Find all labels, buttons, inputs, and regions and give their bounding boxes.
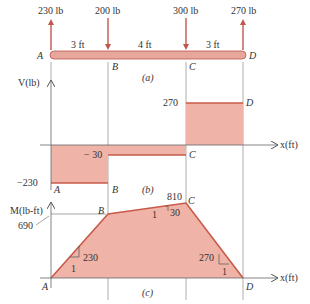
moment-tick-810: 810 bbox=[167, 191, 182, 202]
shear-point-d: D bbox=[245, 97, 254, 108]
moment-diagram: M(lb-ft) x(ft) 690 810 230 1 30 1 270 1 … bbox=[10, 191, 298, 299]
segment-label-bc: 4 ft bbox=[138, 39, 152, 50]
load-label-d: 270 lb bbox=[231, 5, 256, 16]
slope-rise-cd: 270 bbox=[199, 252, 214, 263]
slope-run-bc: 1 bbox=[152, 209, 157, 220]
slope-run-ab: 1 bbox=[71, 263, 76, 274]
load-label-c: 300 lb bbox=[173, 5, 198, 16]
slope-run-cd: 1 bbox=[222, 266, 227, 277]
beam-section: 230 lb 200 lb 300 lb 270 lb 3 ft 4 ft 3 … bbox=[36, 5, 257, 84]
point-label-c: C bbox=[189, 61, 196, 72]
caption-a: (a) bbox=[142, 72, 154, 84]
shear-tick-270: 270 bbox=[163, 97, 178, 108]
load-label-b: 200 lb bbox=[95, 5, 120, 16]
moment-point-a: A bbox=[41, 281, 49, 292]
slope-rise-ab: 230 bbox=[83, 252, 98, 263]
shear-region-bc bbox=[108, 145, 186, 155]
segment-label-ab: 3 ft bbox=[71, 39, 85, 50]
beam bbox=[50, 51, 246, 59]
caption-c: (c) bbox=[142, 287, 154, 299]
shear-tick-neg230: −230 bbox=[17, 177, 38, 188]
beam-diagram: 230 lb 200 lb 300 lb 270 lb 3 ft 4 ft 3 … bbox=[0, 0, 310, 304]
shear-point-b: B bbox=[112, 184, 118, 195]
slope-rise-bc: 30 bbox=[170, 207, 180, 218]
shear-point-c: C bbox=[189, 149, 196, 160]
point-label-b: B bbox=[112, 61, 118, 72]
moment-point-b: B bbox=[98, 205, 104, 216]
segment-label-cd: 3 ft bbox=[206, 39, 220, 50]
moment-tick-690: 690 bbox=[18, 220, 33, 231]
load-label-a: 230 lb bbox=[38, 5, 63, 16]
moment-x-label: x(ft) bbox=[280, 272, 298, 284]
shear-point-a: A bbox=[53, 184, 61, 195]
shear-region-cd bbox=[186, 103, 243, 145]
moment-690-leader bbox=[36, 216, 49, 225]
moment-point-c: C bbox=[188, 195, 195, 206]
caption-b: (b) bbox=[142, 184, 154, 196]
point-label-a: A bbox=[36, 50, 44, 61]
shear-diagram: V(lb) x(ft) 270 − 30 −230 A B C D (b) bbox=[17, 77, 298, 196]
moment-axis-label: M(lb-ft) bbox=[10, 205, 43, 217]
point-label-d: D bbox=[248, 50, 257, 61]
shear-axis-label: V(lb) bbox=[18, 77, 40, 89]
shear-tick-neg30: − 30 bbox=[84, 149, 102, 160]
shear-x-label: x(ft) bbox=[280, 139, 298, 151]
moment-point-d: D bbox=[245, 281, 254, 292]
